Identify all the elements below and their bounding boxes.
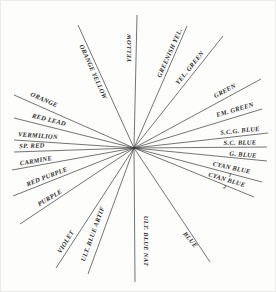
ray-sc-blue-line	[134, 147, 267, 148]
ray-red-purple-line	[13, 148, 134, 196]
label-g-blue-text: G. BLUE	[229, 149, 257, 158]
ray-yellow-line	[134, 15, 137, 148]
complementary-colors-diagram: ORANGE YELLOWYELLOWGREENISH YEL.YEL. GRE…	[0, 0, 276, 292]
label-sc-blue: S.C. BLUE	[224, 140, 257, 147]
ray-orange-line	[14, 95, 134, 148]
label-ult-blue-nat: ULT. BLUE NAT	[142, 216, 149, 267]
label-ult-blue-nat-text: ULT. BLUE NAT	[143, 216, 150, 267]
ray-greenish-yellow-line	[134, 26, 187, 148]
ray-violet-line	[56, 148, 134, 268]
label-sp-red-text: SP. RED	[19, 142, 45, 150]
ray-ult-blue-artif-line	[88, 148, 134, 274]
ray-green-line	[134, 79, 261, 148]
ray-ult-blue-nat-line	[134, 148, 135, 282]
ray-yellow-green-line	[134, 36, 223, 148]
label-yellow: YELLOW	[126, 34, 133, 63]
label-sc-blue-text: S.C. BLUE	[224, 139, 257, 147]
label-yellow-text: YELLOW	[125, 34, 132, 63]
